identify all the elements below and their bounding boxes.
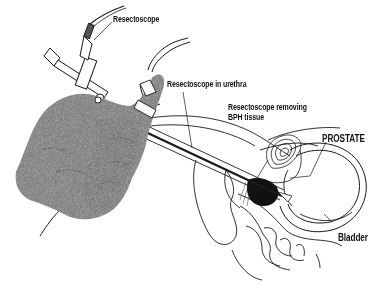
gloved-hands <box>16 74 164 219</box>
label-resectoscope: Resectoscope <box>113 15 159 24</box>
turp-diagram <box>0 0 378 291</box>
label-resectoscope-in-urethra: Resectoscope in urethra <box>167 80 246 89</box>
label-bph-tissue: BPH tissue <box>228 113 264 122</box>
prostate-shape <box>267 135 302 183</box>
label-prostate: PROSTATE <box>322 134 365 144</box>
label-bladder: Bladder <box>338 233 368 243</box>
bladder-shape <box>280 143 366 232</box>
label-resectoscope-removing: Resectoscope removing <box>228 103 307 112</box>
